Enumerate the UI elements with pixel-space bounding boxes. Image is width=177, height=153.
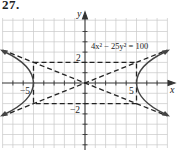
tick-label-5: 5 — [129, 86, 134, 96]
arrowhead-icon — [162, 111, 170, 117]
y-axis-label: y — [76, 8, 82, 19]
y-axis-arrow-icon — [83, 12, 88, 19]
hyperbola-chart: y x −5 5 2 −2 4x² − 25y² = 100 — [0, 0, 177, 153]
arrowhead-icon — [0, 50, 8, 56]
arrowhead-icon — [162, 50, 170, 56]
arrowhead-icon — [0, 111, 8, 117]
tick-label-neg2: −2 — [70, 105, 80, 115]
equation-label: 4x² − 25y² = 100 — [91, 41, 148, 51]
x-axis-label: x — [169, 84, 175, 95]
tick-label-neg5: −5 — [20, 86, 30, 96]
tick-label-2: 2 — [76, 53, 81, 63]
